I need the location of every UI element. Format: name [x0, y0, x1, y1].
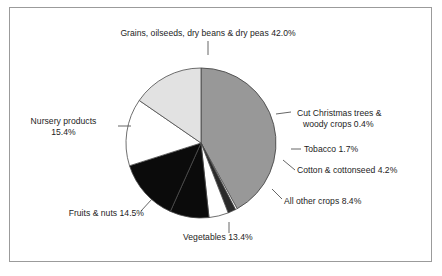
slice-label-vegetables: Vegetables 13.4%: [183, 232, 323, 243]
leader-line-all-other-crops: [272, 189, 282, 199]
slice-label-cut-christmas-trees-line1: Cut Christmas trees &: [297, 108, 381, 118]
slice-label-cotton-cottonseed: Cotton & cottonseed 4.2%: [297, 165, 437, 176]
slice-label-all-other-crops: All other crops 8.4%: [284, 196, 424, 207]
chart-plot-area: Grains, oilseeds, dry beans & dry peas 4…: [0, 0, 442, 276]
slice-label-grains: Grains, oilseeds, dry beans & dry peas 4…: [83, 28, 333, 39]
slice-label-cut-christmas-trees: Cut Christmas trees & woody crops 0.4%: [297, 108, 427, 129]
slice-label-fruits-nuts: Fruits & nuts 14.5%: [14, 208, 144, 219]
pie-slices: [126, 68, 276, 218]
slice-label-nursery-products-line2: 15.4%: [51, 127, 75, 137]
slice-label-nursery-products: Nursery products 15.4%: [10, 116, 117, 137]
leader-line-cut-christmas-trees: [276, 112, 291, 114]
leader-line-cotton: [283, 160, 295, 170]
pie-chart-figure: Grains, oilseeds, dry beans & dry peas 4…: [0, 0, 442, 276]
slice-label-cut-christmas-trees-line2: woody crops 0.4%: [297, 119, 374, 129]
slice-label-nursery-products-line1: Nursery products: [31, 116, 97, 126]
slice-label-tobacco: Tobacco 1.7%: [304, 144, 424, 155]
